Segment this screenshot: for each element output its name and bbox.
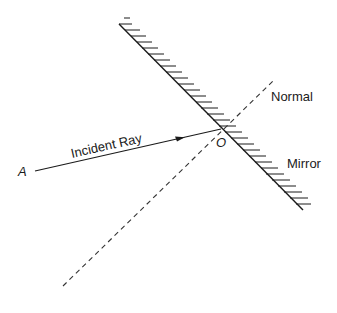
- point-o-label: O: [216, 135, 226, 150]
- normal-label: Normal: [271, 89, 313, 104]
- arrowhead-icon: [175, 137, 185, 142]
- reflection-diagram: Incident Ray Normal Mirror A O: [0, 0, 337, 313]
- point-a-label: A: [17, 164, 27, 179]
- mirror-line: [119, 24, 303, 210]
- incident-ray-label: Incident Ray: [69, 130, 143, 161]
- normal-line: [63, 80, 274, 286]
- mirror-hatching: [119, 18, 311, 204]
- mirror-label: Mirror: [287, 156, 322, 171]
